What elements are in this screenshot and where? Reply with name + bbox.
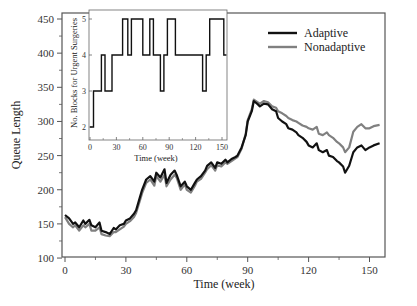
inset-x-tick-label: 150 bbox=[216, 143, 228, 152]
inset-y-axis-label: No. Blocks for Urgent Surgeries bbox=[69, 18, 79, 128]
inset-y-tick-label: 2 bbox=[82, 123, 86, 132]
inset-x-tick-label: 90 bbox=[165, 143, 173, 152]
y-tick-label: 250 bbox=[38, 150, 55, 162]
inset-x-tick-label: 60 bbox=[139, 143, 147, 152]
x-tick-label: 120 bbox=[300, 264, 317, 276]
x-tick-label: 60 bbox=[181, 264, 193, 276]
y-tick-label: 150 bbox=[38, 218, 55, 230]
x-axis-label: Time (week) bbox=[193, 277, 254, 291]
x-tick-label: 90 bbox=[242, 264, 254, 276]
y-tick-label: 450 bbox=[38, 13, 55, 25]
legend-label-adaptive: Adaptive bbox=[304, 26, 348, 40]
legend: Adaptive Nonadaptive bbox=[268, 26, 365, 54]
y-tick-label: 350 bbox=[38, 81, 55, 93]
x-tick-label: 30 bbox=[120, 264, 132, 276]
queue-length-chart: 100150200250300350400450 0306090120150 T… bbox=[0, 0, 417, 306]
inset-y-tick-label: 4 bbox=[82, 51, 86, 60]
inset-y-tick-label: 3 bbox=[82, 87, 86, 96]
inset-x-tick-label: 0 bbox=[88, 143, 92, 152]
x-tick-label: 150 bbox=[361, 264, 378, 276]
legend-label-nonadaptive: Nonadaptive bbox=[304, 40, 365, 54]
y-axis-label: Queue Length bbox=[9, 101, 23, 169]
inset-x-axis-label: Time (week) bbox=[134, 153, 178, 163]
y-tick-label: 400 bbox=[38, 47, 55, 59]
main-x-ticks: 0306090120150 bbox=[62, 257, 378, 276]
inset-x-tick-label: 30 bbox=[112, 143, 120, 152]
y-tick-label: 200 bbox=[38, 184, 55, 196]
inset-y-tick-label: 5 bbox=[82, 15, 86, 24]
main-y-ticks: 100150200250300350400450 bbox=[38, 13, 63, 264]
x-tick-label: 0 bbox=[62, 264, 68, 276]
inset-x-tick-label: 120 bbox=[190, 143, 202, 152]
y-tick-label: 300 bbox=[38, 115, 55, 127]
y-tick-label: 100 bbox=[38, 252, 55, 264]
